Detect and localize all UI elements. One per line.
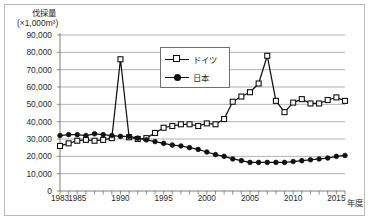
data-point-marker bbox=[256, 160, 261, 165]
data-point-marker bbox=[118, 134, 123, 139]
data-point-marker bbox=[196, 124, 201, 129]
data-point-marker bbox=[135, 136, 140, 141]
data-point-marker bbox=[248, 90, 253, 95]
data-point-marker bbox=[213, 152, 218, 157]
data-point-marker bbox=[291, 100, 296, 105]
filled-circle-marker-icon bbox=[165, 72, 189, 82]
data-point-marker bbox=[230, 157, 235, 162]
open-square-marker-icon bbox=[165, 54, 189, 64]
data-point-marker bbox=[334, 154, 339, 159]
data-point-marker bbox=[101, 137, 106, 142]
data-point-marker bbox=[75, 132, 80, 137]
data-point-marker bbox=[239, 94, 244, 99]
legend-entry-japan: 日本 bbox=[165, 69, 209, 85]
data-point-marker bbox=[325, 98, 330, 103]
data-point-marker bbox=[178, 122, 183, 127]
data-point-marker bbox=[308, 101, 313, 106]
data-point-marker bbox=[127, 134, 132, 139]
data-point-marker bbox=[265, 53, 270, 58]
data-point-marker bbox=[282, 110, 287, 115]
data-point-marker bbox=[66, 132, 71, 137]
data-point-marker bbox=[101, 132, 106, 137]
data-point-marker bbox=[256, 81, 261, 86]
data-point-marker bbox=[144, 138, 149, 143]
plot-canvas bbox=[0, 0, 370, 221]
data-point-marker bbox=[118, 57, 123, 62]
data-point-marker bbox=[334, 95, 339, 100]
data-point-marker bbox=[110, 133, 115, 138]
data-point-marker bbox=[58, 143, 63, 148]
data-point-marker bbox=[265, 160, 270, 165]
data-point-marker bbox=[274, 160, 279, 165]
data-point-marker bbox=[204, 121, 209, 126]
data-point-marker bbox=[161, 141, 166, 146]
data-point-marker bbox=[170, 124, 175, 129]
legend: ドイツ 日本 bbox=[160, 47, 230, 88]
data-point-marker bbox=[205, 150, 210, 155]
data-point-marker bbox=[308, 158, 313, 163]
data-point-marker bbox=[153, 130, 158, 135]
data-point-marker bbox=[248, 160, 253, 165]
data-point-marker bbox=[213, 122, 218, 127]
data-point-marker bbox=[239, 158, 244, 163]
data-point-marker bbox=[75, 138, 80, 143]
data-point-marker bbox=[343, 153, 348, 158]
data-point-marker bbox=[325, 156, 330, 161]
data-point-marker bbox=[170, 143, 175, 148]
data-point-marker bbox=[84, 133, 89, 138]
data-point-marker bbox=[222, 117, 227, 122]
data-point-marker bbox=[187, 145, 192, 150]
data-point-marker bbox=[58, 133, 63, 138]
data-point-marker bbox=[230, 99, 235, 104]
data-point-marker bbox=[179, 144, 184, 149]
series-japan bbox=[58, 132, 348, 165]
data-point-marker bbox=[273, 98, 278, 103]
data-point-marker bbox=[92, 132, 97, 137]
data-point-marker bbox=[291, 159, 296, 164]
legend-entry-germany: ドイツ bbox=[165, 51, 217, 67]
legend-label-japan: 日本 bbox=[193, 71, 209, 83]
data-point-marker bbox=[153, 139, 158, 144]
data-point-marker bbox=[187, 122, 192, 127]
data-point-marker bbox=[300, 158, 305, 163]
chart-figure: 伐採量 (×1,000m³) 010,00020,00030,00040,000… bbox=[0, 0, 370, 221]
data-point-marker bbox=[92, 138, 97, 143]
legend-label-germany: ドイツ bbox=[193, 53, 217, 65]
data-point-marker bbox=[343, 98, 348, 103]
data-point-marker bbox=[222, 154, 227, 159]
data-point-marker bbox=[161, 125, 166, 130]
data-point-marker bbox=[282, 160, 287, 165]
data-point-marker bbox=[317, 101, 322, 106]
data-point-marker bbox=[317, 157, 322, 162]
data-point-marker bbox=[299, 97, 304, 102]
data-point-marker bbox=[196, 147, 201, 152]
data-point-marker bbox=[66, 141, 71, 146]
